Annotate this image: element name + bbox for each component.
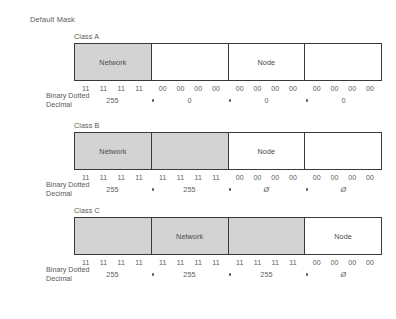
octet-cell xyxy=(305,44,381,80)
bits-octet-group: 00000000 xyxy=(151,83,228,94)
bit-pair: 00 xyxy=(254,174,262,181)
bits-octet-group: 11111111 xyxy=(151,172,228,183)
bit-pair: 00 xyxy=(236,174,244,181)
binary-dotted-decimal-caption: Binary DottedDecimal xyxy=(46,181,90,198)
bits-octet-group: 11111111 xyxy=(151,257,228,268)
bit-pair: 11 xyxy=(177,259,185,266)
dotted-decimal-row: 255255255Ø xyxy=(74,268,382,281)
bit-pair: 00 xyxy=(348,174,356,181)
bit-pair: 11 xyxy=(289,259,297,266)
caption-line-2: Decimal xyxy=(46,101,90,110)
octet-cell: Network xyxy=(75,44,152,80)
decimal-octet: 255 xyxy=(151,268,228,281)
decimal-value: 255 xyxy=(106,185,119,194)
decimal-value: Ø xyxy=(264,185,270,194)
decimal-value: 0 xyxy=(341,96,345,105)
octet-cell: Node xyxy=(229,44,306,80)
bit-pair: 11 xyxy=(118,259,126,266)
bit-pair: 00 xyxy=(331,259,339,266)
class-label: Class C xyxy=(74,206,100,215)
bit-pair: 11 xyxy=(135,259,143,266)
caption-line-2: Decimal xyxy=(46,190,90,199)
bit-pair: 00 xyxy=(271,85,279,92)
dotted-decimal-row: 255255ØØ xyxy=(74,183,382,196)
bit-pair: 11 xyxy=(212,259,220,266)
bit-pair: 11 xyxy=(135,85,143,92)
decimal-octet: Ø xyxy=(305,268,382,281)
bit-pair: 11 xyxy=(135,174,143,181)
bit-pair: 11 xyxy=(118,174,126,181)
bit-pair: 00 xyxy=(366,85,374,92)
bit-pair: 11 xyxy=(195,174,203,181)
bit-pair: 00 xyxy=(348,259,356,266)
caption-line-2: Decimal xyxy=(46,275,90,284)
bit-pair: 00 xyxy=(366,259,374,266)
bit-pair: 00 xyxy=(254,85,262,92)
bit-pair: 00 xyxy=(348,85,356,92)
bit-pair: 11 xyxy=(100,174,108,181)
bit-pair: 00 xyxy=(159,85,167,92)
bit-pair: 11 xyxy=(177,174,185,181)
octet-cell xyxy=(152,133,229,169)
binary-bits-row: 11111111111111111111111100000000 xyxy=(74,257,382,268)
bit-pair: 00 xyxy=(289,174,297,181)
bit-pair: 00 xyxy=(331,174,339,181)
class-label: Class B xyxy=(74,121,99,130)
bits-octet-group: 00000000 xyxy=(305,83,382,94)
decimal-value: Ø xyxy=(341,270,347,279)
bit-pair: 00 xyxy=(331,85,339,92)
bit-pair: 00 xyxy=(289,85,297,92)
bit-pair: 11 xyxy=(159,259,167,266)
bit-pair: 11 xyxy=(100,85,108,92)
decimal-value: 255 xyxy=(183,185,196,194)
octet-label: Network xyxy=(99,147,126,156)
binary-bits-row: 11111111000000000000000000000000 xyxy=(74,83,382,94)
binary-dotted-decimal-caption: Binary DottedDecimal xyxy=(46,92,90,109)
bit-pair: 11 xyxy=(195,259,203,266)
decimal-octet: 255 xyxy=(151,183,228,196)
decimal-octet: 255 xyxy=(228,268,305,281)
octet-row: NetworkNode xyxy=(74,132,382,170)
octet-cell xyxy=(152,44,229,80)
dotted-decimal-row: 255000 xyxy=(74,94,382,107)
bit-pair: 00 xyxy=(313,85,321,92)
class-label: Class A xyxy=(74,32,99,41)
decimal-octet: 0 xyxy=(151,94,228,107)
decimal-octet: Ø xyxy=(305,183,382,196)
bits-octet-group: 00000000 xyxy=(305,172,382,183)
bit-pair: 00 xyxy=(177,85,185,92)
octet-label: Node xyxy=(258,58,276,67)
bit-pair: 11 xyxy=(272,259,280,266)
decimal-value: 0 xyxy=(187,96,191,105)
bits-octet-group: 11111111 xyxy=(228,257,305,268)
octet-label: Node xyxy=(334,232,352,241)
bit-pair: 11 xyxy=(100,259,108,266)
decimal-value: 255 xyxy=(183,270,196,279)
bits-octet-group: 00000000 xyxy=(228,83,305,94)
bit-pair: 00 xyxy=(194,85,202,92)
decimal-value: 255 xyxy=(106,96,119,105)
bit-pair: 11 xyxy=(118,85,126,92)
octet-row: NetworkNode xyxy=(74,43,382,81)
decimal-octet: 0 xyxy=(305,94,382,107)
decimal-octet: 0 xyxy=(228,94,305,107)
octet-label: Network xyxy=(176,232,203,241)
binary-bits-row: 11111111111111110000000000000000 xyxy=(74,172,382,183)
page-title: Default Mask xyxy=(30,15,75,24)
bit-pair: 00 xyxy=(236,85,244,92)
octet-cell xyxy=(229,218,306,254)
bit-pair: 00 xyxy=(271,174,279,181)
bit-pair: 11 xyxy=(254,259,262,266)
binary-dotted-decimal-caption: Binary DottedDecimal xyxy=(46,266,90,283)
bit-pair: 00 xyxy=(366,174,374,181)
octet-cell: Network xyxy=(152,218,229,254)
decimal-value: 255 xyxy=(260,270,273,279)
octet-label: Node xyxy=(258,147,276,156)
bit-pair: 11 xyxy=(212,174,220,181)
bit-pair: 00 xyxy=(313,259,321,266)
octet-cell xyxy=(75,218,152,254)
bit-pair: 00 xyxy=(313,174,321,181)
octet-cell: Network xyxy=(75,133,152,169)
octet-row: NetworkNode xyxy=(74,217,382,255)
octet-cell: Node xyxy=(305,218,381,254)
